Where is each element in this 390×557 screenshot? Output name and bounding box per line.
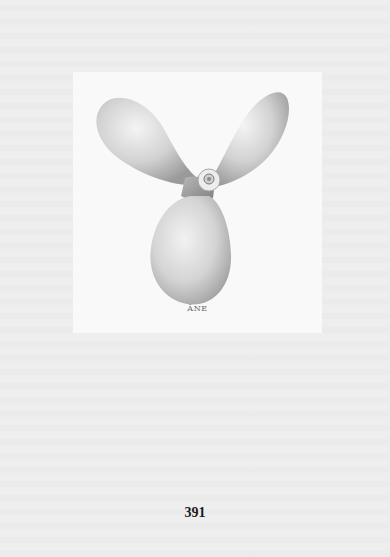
plate-caption: ÂNE [73, 304, 322, 313]
propeller-illustration [73, 72, 322, 333]
left-blade [96, 98, 197, 185]
book-page: ÂNE 391 [0, 0, 390, 557]
illustration-plate: ÂNE [73, 72, 322, 333]
page-number: 391 [0, 505, 390, 521]
bottom-blade [150, 196, 231, 304]
right-blade [213, 92, 289, 186]
